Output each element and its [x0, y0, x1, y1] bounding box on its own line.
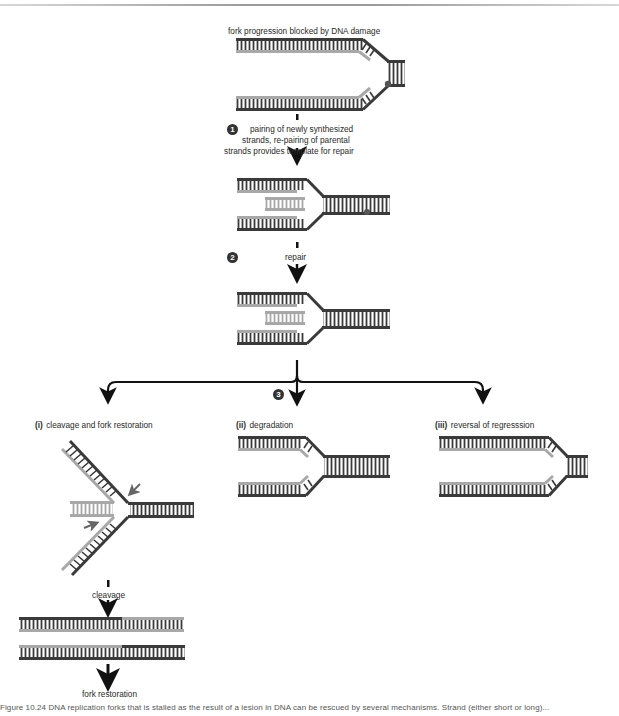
- branch-iii-label: (iii)reversal of regresssion: [435, 419, 534, 430]
- branch-arrows: [108, 360, 483, 398]
- step-2-label: repair: [285, 251, 306, 262]
- stalled-fork: [236, 38, 405, 111]
- cleavage-fork-structure: [62, 441, 194, 575]
- step-2-badge: 2: [227, 252, 238, 263]
- step-3-badge: 3: [273, 389, 284, 400]
- top-label: fork progression blocked by DNA damage: [228, 25, 380, 36]
- branch-i-numeral: (i): [35, 419, 43, 430]
- branch-iii-numeral: (iii): [435, 419, 447, 430]
- cleavage-label: cleavage: [92, 589, 125, 600]
- figure-caption: Figure 10.24 DNA replication forks that …: [0, 703, 619, 712]
- step-1-line-1: pairing of newly synthesized: [250, 123, 353, 134]
- cleavage-site-arrow-icon: [132, 484, 140, 492]
- branch-ii-label: (ii)degradation: [236, 419, 293, 430]
- branch-ii-text: degradation: [250, 419, 294, 430]
- fork-restoration-label: fork restoration: [82, 688, 137, 699]
- step-1-line-2: strands, re-pairing of parental: [242, 134, 350, 145]
- step-1-line-3: strands provides template for repair: [224, 145, 354, 156]
- restored-fork-duplexes: [19, 617, 185, 660]
- reversal-fork: [439, 436, 588, 497]
- damage-lesion-icon: [364, 209, 370, 215]
- degradation-fork: [238, 436, 390, 497]
- branch-iii-text: reversal of regresssion: [451, 419, 534, 430]
- regressed-fork-with-lesion: [237, 178, 390, 231]
- repaired-regressed-fork: [237, 292, 390, 345]
- step-1-badge: 1: [227, 124, 238, 135]
- branch-ii-numeral: (ii): [236, 419, 246, 430]
- cleavage-site-arrow-icon: [84, 524, 94, 528]
- dna-diagram: [0, 0, 619, 716]
- damage-lesion-icon: [385, 81, 391, 87]
- branch-i-label: (i)cleavage and fork restoration: [35, 419, 153, 430]
- branch-i-text: cleavage and fork restoration: [46, 419, 152, 430]
